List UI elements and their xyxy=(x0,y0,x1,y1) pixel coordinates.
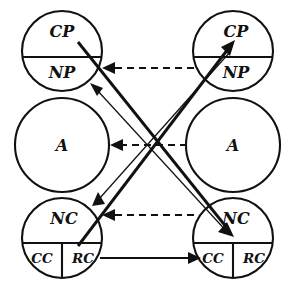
right-cc-label: CC xyxy=(202,250,224,266)
right-np-label: NP xyxy=(222,63,251,82)
transaction-nc-to-nc[interactable] xyxy=(102,209,194,221)
left-adult-circle[interactable]: A xyxy=(15,98,109,192)
transaction-np-to-np[interactable] xyxy=(102,62,194,74)
person-left: CP NP A NC CC RC xyxy=(15,11,109,278)
left-cc-label: CC xyxy=(31,250,53,266)
right-adult-circle[interactable]: A xyxy=(186,98,280,192)
right-cp-label: CP xyxy=(224,22,250,41)
arrowhead-icon xyxy=(110,139,123,151)
left-nc-label: NC xyxy=(49,209,78,228)
right-child-circle[interactable]: NC CC RC xyxy=(193,198,273,278)
left-np-label: NP xyxy=(48,63,77,82)
left-child-circle[interactable]: NC CC RC xyxy=(22,198,102,278)
ego-state-diagram: CP NP A NC CC RC xyxy=(0,0,293,291)
left-rc-label: RC xyxy=(71,250,94,266)
diagram-canvas: CP NP A NC CC RC xyxy=(0,0,293,291)
right-adult-label: A xyxy=(225,136,239,155)
left-cp-label: CP xyxy=(50,22,76,41)
left-adult-label: A xyxy=(54,136,68,155)
transaction-adult-to-adult[interactable] xyxy=(110,139,187,151)
transaction-cc-to-cc[interactable] xyxy=(100,252,201,264)
left-parent-circle[interactable]: CP NP xyxy=(22,11,102,91)
person-right: CP NP A NC CC RC xyxy=(186,11,280,278)
right-rc-label: RC xyxy=(242,250,265,266)
